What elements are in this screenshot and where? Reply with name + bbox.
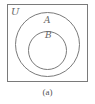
set-b-label: B bbox=[44, 30, 52, 40]
universe-label: U bbox=[11, 6, 20, 17]
venn-diagram: U A B (a) bbox=[0, 0, 95, 104]
set-a-label: A bbox=[43, 15, 51, 25]
caption: (a) bbox=[43, 87, 53, 97]
